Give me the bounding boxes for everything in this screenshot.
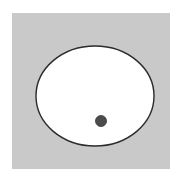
dark-dot [96, 116, 107, 127]
white-ellipse [36, 46, 154, 146]
figure-container [0, 0, 190, 181]
figure-canvas [0, 0, 190, 181]
